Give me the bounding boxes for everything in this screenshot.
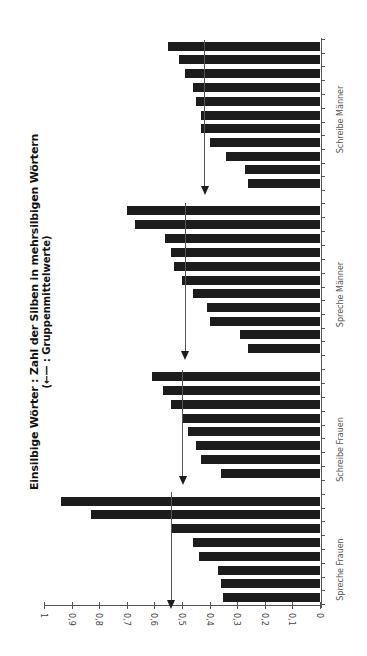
bar — [201, 455, 320, 464]
category-axis-tick — [321, 494, 325, 495]
value-axis-tick-label: 0,1 — [287, 613, 296, 626]
category-axis-tick — [321, 190, 325, 191]
value-axis-tick — [99, 602, 100, 609]
value-axis-tick — [44, 602, 45, 609]
bar — [127, 206, 320, 215]
bar — [201, 111, 320, 120]
category-axis-tick — [321, 287, 325, 288]
bar — [196, 441, 320, 450]
category-axis-tick — [321, 604, 325, 605]
mean-arrow-head-icon — [201, 186, 209, 195]
value-axis-tick-label: 0,7 — [122, 613, 131, 626]
value-axis-tick-label: 0,6 — [149, 613, 158, 626]
bar — [182, 276, 320, 285]
category-axis-tick — [321, 452, 325, 453]
value-axis-tick — [237, 602, 238, 609]
value-axis-tick — [182, 602, 183, 609]
bar — [210, 138, 320, 147]
value-axis-tick-label: 0,4 — [205, 613, 214, 626]
group-label: Spreche Männer — [336, 255, 345, 335]
bar — [240, 330, 320, 339]
category-axis-tick — [321, 369, 325, 370]
category-axis-tick — [321, 53, 325, 54]
category-axis-tick — [321, 577, 325, 578]
category-axis-tick — [321, 122, 325, 123]
mean-arrow-line — [185, 203, 186, 351]
category-axis-tick — [321, 163, 325, 164]
category-axis-tick — [321, 480, 325, 481]
mean-arrow-head-icon — [167, 600, 175, 609]
value-axis-tick-label: 1 — [39, 613, 48, 618]
bar — [221, 469, 320, 478]
bar — [248, 344, 320, 353]
value-axis-tick — [154, 602, 155, 609]
category-axis-tick — [321, 328, 325, 329]
category-axis-tick — [321, 397, 325, 398]
group-label: Spreche Frauen — [336, 530, 345, 610]
value-axis — [44, 605, 322, 606]
chart-subtitle: (←— : Gruppenmittelwerte) — [41, 102, 52, 522]
category-axis-tick — [321, 521, 325, 522]
category-axis-tick — [321, 66, 325, 67]
bar — [207, 303, 320, 312]
bar — [165, 234, 320, 243]
value-axis-tick — [292, 602, 293, 609]
bar — [226, 152, 320, 161]
bar — [193, 538, 320, 547]
category-axis-tick — [321, 245, 325, 246]
category-axis-tick — [321, 438, 325, 439]
category-axis-tick — [321, 135, 325, 136]
category-axis-tick — [321, 203, 325, 204]
category-axis — [321, 38, 322, 608]
category-axis-tick — [321, 231, 325, 232]
category-axis-tick — [321, 341, 325, 342]
category-axis-tick — [321, 508, 325, 509]
chart-title: Einsilbige Wörter : Zahl der Silben in m… — [28, 102, 41, 522]
bar — [221, 579, 320, 588]
category-axis-tick — [321, 466, 325, 467]
bar — [171, 248, 320, 257]
bar — [163, 386, 320, 395]
category-axis-tick — [321, 39, 325, 40]
bar — [171, 400, 320, 409]
bar — [193, 83, 320, 92]
bar — [223, 593, 320, 602]
mean-arrow-line — [182, 370, 183, 476]
category-axis-tick — [321, 259, 325, 260]
bar — [174, 262, 320, 271]
bar — [201, 124, 320, 133]
category-axis-tick — [321, 149, 325, 150]
bar — [171, 524, 320, 533]
category-axis-tick — [321, 314, 325, 315]
bar — [168, 42, 320, 51]
value-axis-tick — [127, 602, 128, 609]
group-label: Schreibe Frauen — [336, 410, 345, 490]
category-axis-tick — [321, 355, 325, 356]
category-axis-tick — [321, 273, 325, 274]
group-label: Schreibe Männer — [336, 80, 345, 160]
bar — [196, 97, 320, 106]
category-axis-tick — [321, 549, 325, 550]
bar — [199, 552, 320, 561]
bar — [135, 220, 320, 229]
category-axis-tick — [321, 425, 325, 426]
category-axis-tick — [321, 300, 325, 301]
value-axis-tick — [265, 602, 266, 609]
bar-chart: Einsilbige Wörter : Zahl der Silben in m… — [0, 0, 367, 656]
bar — [193, 289, 320, 298]
category-axis-tick — [321, 590, 325, 591]
category-axis-tick — [321, 563, 325, 564]
bar — [61, 497, 320, 506]
category-axis-tick — [321, 217, 325, 218]
bar — [210, 317, 320, 326]
value-axis-tick-label: 0,3 — [232, 613, 241, 626]
category-axis-tick — [321, 80, 325, 81]
category-axis-tick — [321, 108, 325, 109]
category-axis-tick — [321, 411, 325, 412]
mean-arrow-line — [171, 492, 172, 600]
chart-title-block: Einsilbige Wörter : Zahl der Silben in m… — [28, 102, 52, 522]
mean-arrow-line — [204, 40, 205, 186]
value-axis-tick — [72, 602, 73, 609]
mean-arrow-head-icon — [179, 476, 187, 485]
category-axis-tick — [321, 176, 325, 177]
